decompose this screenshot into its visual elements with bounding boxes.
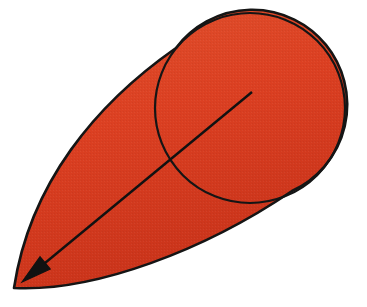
fill-texture-overlay: [0, 0, 367, 307]
figure-svg: [0, 0, 367, 307]
teardrop-body-group: [0, 0, 367, 307]
figure-canvas: [0, 0, 367, 307]
